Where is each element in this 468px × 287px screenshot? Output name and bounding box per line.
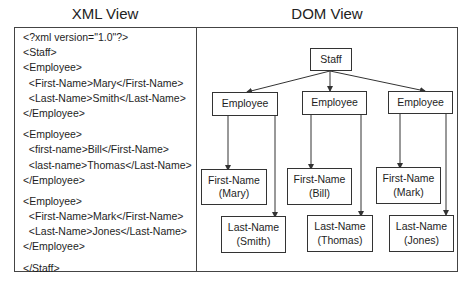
node-value: (Mark) (393, 186, 423, 200)
node-value: (Bill) (309, 187, 330, 201)
node-value: (Jones) (404, 234, 439, 248)
node-label: Staff (320, 53, 341, 67)
dom-node-last-name-thomas: Last-Name (Thomas) (307, 215, 373, 252)
node-label: Employee (311, 96, 358, 110)
dom-node-first-name-bill: First-Name (Bill) (287, 168, 352, 205)
dom-node-employee-3: Employee (388, 91, 453, 114)
node-label: Employee (222, 97, 269, 111)
node-label: First-Name (208, 174, 260, 188)
node-label: First-Name (383, 172, 435, 186)
dom-node-employee-2: Employee (302, 91, 367, 115)
dom-node-employee-1: Employee (212, 92, 278, 116)
node-label: Last-Name (396, 220, 447, 234)
node-label: First-Name (294, 173, 346, 187)
dom-node-last-name-jones: Last-Name (Jones) (389, 215, 454, 252)
dom-node-last-name-smith: Last-Name (Smith) (221, 216, 286, 253)
node-value: (Smith) (237, 235, 271, 249)
dom-node-first-name-mary: First-Name (Mary) (201, 169, 267, 205)
node-label: Last-Name (228, 221, 279, 235)
node-label: Last-Name (314, 220, 365, 234)
node-label: Employee (397, 96, 444, 110)
node-value: (Thomas) (318, 234, 363, 248)
node-value: (Mary) (219, 187, 249, 201)
dom-node-staff: Staff (310, 48, 352, 71)
dom-node-first-name-mark: First-Name (Mark) (376, 167, 441, 204)
